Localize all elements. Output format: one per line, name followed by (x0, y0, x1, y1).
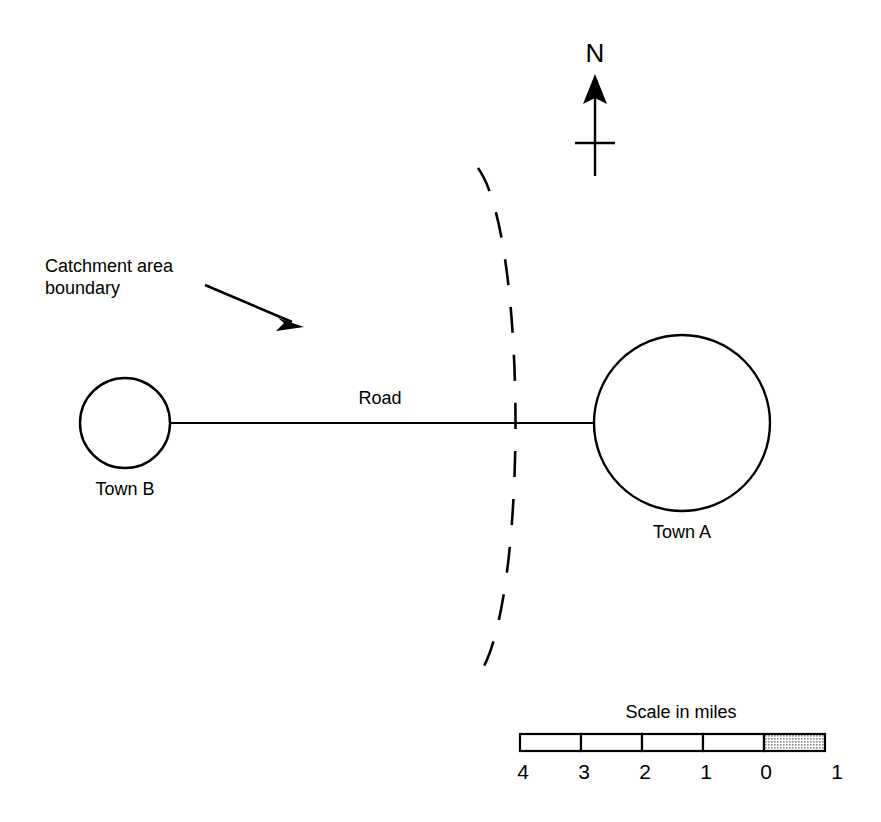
north-label: N (586, 38, 605, 68)
road-label: Road (358, 388, 401, 408)
catchment-annotation-line2: boundary (45, 278, 120, 298)
scale-segment-shaded (764, 734, 825, 751)
scale-segment (581, 734, 642, 751)
scale-segment (703, 734, 764, 751)
town-b-circle (80, 378, 170, 468)
scale-segment (520, 734, 581, 751)
town-a-circle (594, 335, 770, 511)
map-canvas: N Road Town B Town A Catchment area boun… (0, 0, 881, 822)
scale-bar: Scale in miles 4 3 2 1 0 1 (517, 702, 843, 783)
scale-tick-label: 4 (517, 760, 529, 783)
catchment-annotation-line1: Catchment area (45, 256, 174, 276)
north-arrow-icon (575, 74, 615, 176)
scale-tick-label: 1 (831, 760, 843, 783)
map-figure: N Road Town B Town A Catchment area boun… (0, 0, 881, 822)
scale-segment (642, 734, 703, 751)
scale-tick-label: 1 (700, 760, 712, 783)
town-a-label: Town A (653, 522, 711, 542)
town-b-label: Town B (95, 479, 154, 499)
scale-bar-title: Scale in miles (625, 702, 736, 722)
catchment-leader-arrow-icon (205, 285, 304, 331)
scale-tick-label: 0 (760, 760, 772, 783)
scale-tick-label: 2 (639, 760, 651, 783)
scale-tick-label: 3 (578, 760, 590, 783)
